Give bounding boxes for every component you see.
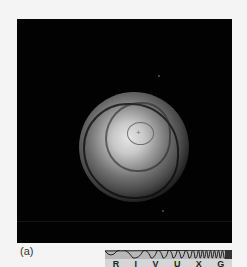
band-v: V <box>153 259 159 267</box>
wave-icon <box>105 250 232 259</box>
band-r: R <box>113 259 120 267</box>
center-marker-icon: + <box>136 129 141 137</box>
detector-seam <box>17 221 232 222</box>
band-g: G <box>217 259 224 267</box>
faint-star <box>158 75 160 77</box>
band-labels: R I V U X G <box>105 259 232 267</box>
band-x: X <box>196 259 202 267</box>
panel-label: (a) <box>20 245 33 257</box>
band-u: U <box>174 259 181 267</box>
faint-star <box>162 210 164 212</box>
image-panel: + <box>17 19 232 243</box>
spectrum-bar: R I V U X G <box>105 250 232 267</box>
band-i: I <box>135 259 138 267</box>
